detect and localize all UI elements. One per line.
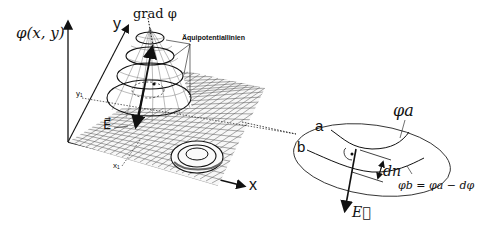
field-label-right: E⃗ bbox=[352, 205, 371, 219]
equipotential-label: Äquipotentiallinien bbox=[182, 34, 245, 41]
phi-axis-label: φ(x, y) bbox=[16, 26, 65, 41]
field-label-left: E⃗ bbox=[103, 118, 111, 131]
detail-connector bbox=[242, 122, 296, 134]
y1-tick-label: y₁ bbox=[76, 90, 83, 98]
y-axis-label: y bbox=[113, 16, 121, 32]
dn-label: dn bbox=[383, 164, 401, 178]
gradient-label: grad φ bbox=[133, 7, 177, 20]
detail-view bbox=[289, 114, 455, 210]
phi-b-label: φb = φa − dφ bbox=[398, 180, 474, 191]
line-a-label: a bbox=[315, 118, 323, 133]
x-axis-label: x bbox=[249, 177, 257, 193]
line-b-label: b bbox=[297, 139, 305, 154]
x1-tick-label: x₁ bbox=[113, 162, 120, 170]
potential-valley bbox=[171, 141, 223, 173]
phi-a-label: φa bbox=[393, 103, 414, 119]
